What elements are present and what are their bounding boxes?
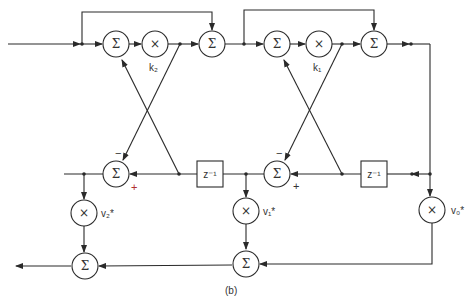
svg-text:z⁻¹: z⁻¹ xyxy=(367,169,381,180)
coefficient-k1-label: k₁ xyxy=(313,62,322,73)
sum-node-bottom-1: Σ xyxy=(72,253,98,279)
lattice-ladder-diagram: Σ × k₂ Σ Σ × k₁ Σ Σ − + z⁻¹ Σ − + z⁻¹ xyxy=(0,0,476,302)
figure-caption: (b) xyxy=(225,285,237,296)
coefficient-k2-label: k₂ xyxy=(149,62,158,73)
svg-text:Σ: Σ xyxy=(112,37,120,51)
multiply-node-v2: × xyxy=(71,200,97,226)
svg-text:Σ: Σ xyxy=(208,37,216,51)
delay-block-stage2: z⁻¹ xyxy=(197,161,223,187)
svg-text:Σ: Σ xyxy=(112,167,120,181)
coefficient-v1-label: v₁* xyxy=(263,206,275,217)
minus-sign-stage2: − xyxy=(115,147,121,159)
coefficient-v2-label: v₂* xyxy=(101,208,114,219)
svg-text:×: × xyxy=(241,204,251,218)
svg-text:×: × xyxy=(314,37,324,51)
sum-node-top-4: Σ xyxy=(361,31,387,57)
svg-text:Σ: Σ xyxy=(273,37,281,51)
minus-sign-stage1: − xyxy=(276,147,282,159)
multiply-node-v0: × xyxy=(419,197,445,223)
plus-sign-stage2: + xyxy=(131,181,137,193)
svg-text:×: × xyxy=(79,206,89,220)
svg-text:z⁻¹: z⁻¹ xyxy=(203,169,217,180)
sum-node-top-1: Σ xyxy=(103,31,129,57)
delay-block-stage1: z⁻¹ xyxy=(361,161,387,187)
svg-text:Σ: Σ xyxy=(242,257,250,271)
svg-text:×: × xyxy=(150,37,160,51)
multiply-node-v1: × xyxy=(233,198,259,224)
svg-text:Σ: Σ xyxy=(273,167,281,181)
svg-text:Σ: Σ xyxy=(370,37,378,51)
sum-node-top-2: Σ xyxy=(199,31,225,57)
junction-dots xyxy=(80,42,432,176)
sum-node-bottom-2: Σ xyxy=(233,251,259,277)
coefficient-v0-label: v₀* xyxy=(451,205,464,216)
plus-sign-stage1: + xyxy=(293,180,299,192)
sum-node-mid-2: Σ xyxy=(264,161,290,187)
svg-text:Σ: Σ xyxy=(81,259,89,273)
multiply-node-k2: × xyxy=(142,31,168,57)
svg-text:×: × xyxy=(427,203,437,217)
sum-node-top-3: Σ xyxy=(264,31,290,57)
sum-node-mid-1: Σ xyxy=(103,161,129,187)
multiply-node-k1: × xyxy=(306,31,332,57)
